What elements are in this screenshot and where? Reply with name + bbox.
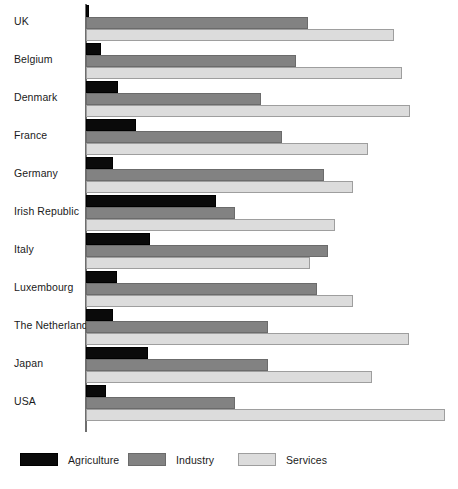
bar-group: Denmark	[0, 80, 458, 118]
legend-label-agriculture: Agriculture	[68, 454, 119, 467]
bar-group: UK	[0, 4, 458, 42]
bar-industry	[86, 17, 308, 29]
category-label: France	[14, 129, 80, 142]
bar-services	[86, 257, 310, 269]
chart-legend: Agriculture Industry Services	[0, 452, 458, 472]
bar-services	[86, 409, 445, 421]
grouped-bar-chart: UKBelgiumDenmarkFranceGermanyIrish Repub…	[0, 0, 458, 489]
bar-services	[86, 371, 372, 383]
bar-services	[86, 333, 409, 345]
bar-agriculture	[86, 81, 118, 93]
bar-services	[86, 181, 353, 193]
bar-services	[86, 219, 335, 231]
category-label: UK	[14, 15, 80, 28]
bar-industry	[86, 397, 235, 409]
bar-services	[86, 29, 394, 41]
bar-agriculture	[86, 5, 89, 17]
bar-services	[86, 295, 353, 307]
bar-industry	[86, 321, 268, 333]
bar-agriculture	[86, 385, 106, 397]
bar-agriculture	[86, 233, 150, 245]
bar-group: Germany	[0, 156, 458, 194]
bar-industry	[86, 207, 235, 219]
legend-label-industry: Industry	[176, 454, 214, 467]
category-label: The Netherlands	[14, 319, 80, 332]
category-label: Denmark	[14, 91, 80, 104]
bar-agriculture	[86, 271, 117, 283]
bar-agriculture	[86, 119, 136, 131]
services-swatch-icon	[238, 453, 276, 466]
bar-agriculture	[86, 309, 113, 321]
category-label: Belgium	[14, 53, 80, 66]
bar-industry	[86, 169, 324, 181]
plot-area: UKBelgiumDenmarkFranceGermanyIrish Repub…	[0, 0, 458, 440]
bar-group: The Netherlands	[0, 308, 458, 346]
bar-agriculture	[86, 157, 113, 169]
bar-group: Irish Republic	[0, 194, 458, 232]
bar-industry	[86, 131, 282, 143]
bar-group: Italy	[0, 232, 458, 270]
category-label: Italy	[14, 243, 80, 256]
category-label: Irish Republic	[14, 205, 80, 218]
bar-industry	[86, 55, 296, 67]
legend-label-services: Services	[286, 454, 327, 467]
category-label: USA	[14, 395, 80, 408]
category-label: Japan	[14, 357, 80, 370]
bar-agriculture	[86, 347, 148, 359]
bar-agriculture	[86, 195, 216, 207]
bar-industry	[86, 359, 268, 371]
bar-services	[86, 67, 402, 79]
bar-industry	[86, 93, 261, 105]
bar-group: USA	[0, 384, 458, 422]
bar-agriculture	[86, 43, 101, 55]
bar-group: Luxembourg	[0, 270, 458, 308]
bar-group: France	[0, 118, 458, 156]
bar-group: Japan	[0, 346, 458, 384]
agriculture-swatch-icon	[20, 453, 58, 466]
bar-services	[86, 143, 368, 155]
category-label: Luxembourg	[14, 281, 80, 294]
bar-group: Belgium	[0, 42, 458, 80]
bar-industry	[86, 245, 328, 257]
category-label: Germany	[14, 167, 80, 180]
bar-services	[86, 105, 410, 117]
bar-industry	[86, 283, 317, 295]
industry-swatch-icon	[128, 453, 166, 466]
